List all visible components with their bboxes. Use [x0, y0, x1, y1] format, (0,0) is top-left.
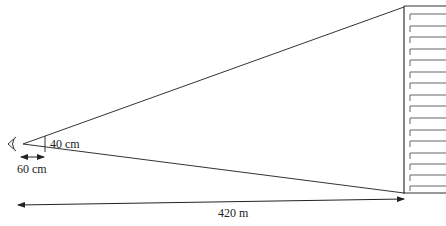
sight-line-top — [23, 7, 404, 144]
sight-line-bottom — [23, 144, 404, 193]
building-distance-arrow — [18, 199, 404, 205]
building-distance-label: 420 m — [218, 206, 248, 221]
object-size-label: 40 cm — [50, 137, 80, 152]
object-distance-label: 60 cm — [17, 162, 47, 177]
building-windows — [410, 14, 446, 191]
eye-icon — [8, 137, 16, 151]
diagram-canvas — [0, 0, 446, 226]
